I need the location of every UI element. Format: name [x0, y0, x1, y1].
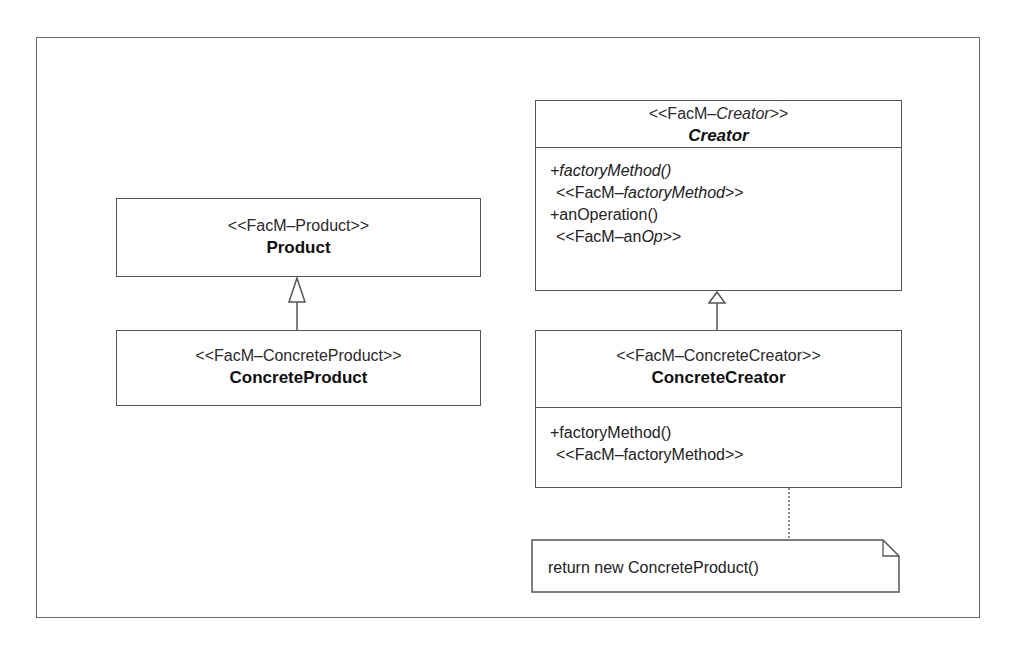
class-creator-stereotype: <<FacM–Creator>>	[536, 103, 901, 125]
operation-factory-method: +factoryMethod()	[550, 422, 901, 444]
class-creator-name: Creator	[536, 125, 901, 147]
class-concrete-creator-operations: +factoryMethod() <<FacM–factoryMethod>>	[536, 407, 901, 466]
operation-factory-method: +factoryMethod()	[550, 160, 901, 182]
operation-factory-method-stereotype: <<FacM–factoryMethod>>	[550, 182, 901, 204]
note-text: return new ConcreteProduct()	[548, 557, 759, 579]
class-concrete-product-stereotype: <<FacM–ConcreteProduct>>	[117, 345, 480, 367]
class-product[interactable]: <<FacM–Product>> Product	[116, 198, 481, 277]
class-concrete-creator-stereotype: <<FacM–ConcreteCreator>>	[536, 345, 901, 367]
class-concrete-product[interactable]: <<FacM–ConcreteProduct>> ConcreteProduct	[116, 330, 481, 406]
class-product-stereotype: <<FacM–Product>>	[117, 215, 480, 237]
class-concrete-product-name: ConcreteProduct	[117, 367, 480, 389]
class-product-header: <<FacM–Product>> Product	[117, 199, 480, 259]
class-concrete-creator-name: ConcreteCreator	[536, 367, 901, 389]
class-creator[interactable]: <<FacM–Creator>> Creator +factoryMethod(…	[535, 100, 902, 291]
class-concrete-product-header: <<FacM–ConcreteProduct>> ConcreteProduct	[117, 331, 480, 389]
class-product-name: Product	[117, 237, 480, 259]
operation-an-operation-stereotype: <<FacM–anOp>>	[550, 226, 901, 248]
class-creator-operations: +factoryMethod() <<FacM–factoryMethod>> …	[536, 147, 901, 248]
operation-an-operation: +anOperation()	[550, 204, 901, 226]
class-concrete-creator-header: <<FacM–ConcreteCreator>> ConcreteCreator	[536, 331, 901, 407]
class-concrete-creator[interactable]: <<FacM–ConcreteCreator>> ConcreteCreator…	[535, 330, 902, 488]
class-creator-header: <<FacM–Creator>> Creator	[536, 101, 901, 147]
operation-factory-method-stereotype: <<FacM–factoryMethod>>	[550, 444, 901, 466]
